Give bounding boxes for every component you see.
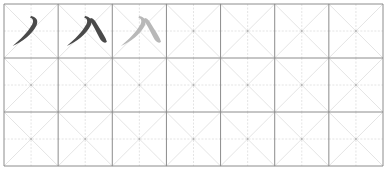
center-dot bbox=[301, 30, 303, 32]
center-dot bbox=[301, 84, 303, 86]
center-dot bbox=[138, 138, 140, 140]
center-dot bbox=[247, 84, 249, 86]
center-dot bbox=[84, 84, 86, 86]
na-stroke bbox=[90, 18, 107, 43]
center-dot bbox=[138, 84, 140, 86]
center-dot bbox=[84, 138, 86, 140]
center-dot bbox=[355, 30, 357, 32]
center-dot bbox=[355, 84, 357, 86]
character-strokes bbox=[13, 16, 161, 46]
center-dot bbox=[193, 84, 195, 86]
center-dot bbox=[247, 30, 249, 32]
center-dot bbox=[355, 138, 357, 140]
practice-sheet bbox=[0, 0, 389, 171]
center-dot bbox=[193, 30, 195, 32]
center-dot bbox=[301, 138, 303, 140]
center-dot bbox=[193, 138, 195, 140]
na-stroke bbox=[144, 18, 161, 43]
center-dot bbox=[30, 138, 32, 140]
center-dot bbox=[30, 84, 32, 86]
center-dot bbox=[247, 138, 249, 140]
guide-lines bbox=[4, 4, 383, 166]
